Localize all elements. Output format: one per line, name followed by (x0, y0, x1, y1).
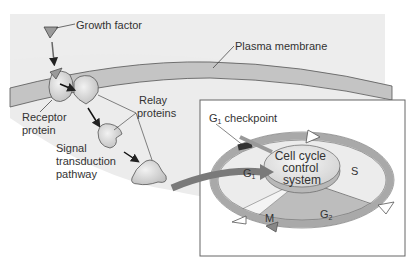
phase-s-label: S (351, 165, 358, 177)
cell-signaling-diagram: Growth factor Plasma membrane Receptor p… (0, 0, 409, 260)
growth-factor-label: Growth factor (76, 19, 142, 31)
receptor-protein (49, 71, 73, 101)
plasma-membrane-label: Plasma membrane (235, 40, 327, 52)
phase-m-label: M (265, 212, 274, 224)
